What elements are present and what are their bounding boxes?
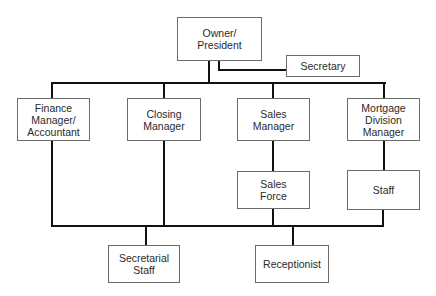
sales-up-line xyxy=(272,82,274,98)
finance-up-line xyxy=(51,82,53,98)
mortgage-to-staff-line xyxy=(383,140,385,170)
closing-up-line xyxy=(163,82,165,98)
closing-down-line xyxy=(163,140,165,227)
node-staff: Staff xyxy=(347,170,420,210)
receptionist-line xyxy=(292,225,294,245)
node-receptionist: Receptionist xyxy=(255,245,329,283)
finance-down-line xyxy=(51,140,53,227)
owner-trunk-line xyxy=(208,60,210,84)
node-secretary: Secretary xyxy=(286,55,360,77)
mortgage-up-line xyxy=(383,82,385,98)
secretarial-staff-line xyxy=(145,225,147,245)
node-closing-manager: Closing Manager xyxy=(127,98,201,141)
node-sales-manager: Sales Manager xyxy=(237,98,310,141)
node-secretarial-staff: Secretarial Staff xyxy=(108,245,180,283)
node-finance-manager: Finance Manager/ Accountant xyxy=(17,98,90,141)
node-mortgage-manager: Mortgage Division Manager xyxy=(347,98,420,141)
node-owner-president: Owner/ President xyxy=(177,17,262,61)
sales-to-force-line xyxy=(272,140,274,171)
org-chart: Owner/ President Secretary Finance Manag… xyxy=(0,0,436,296)
secretary-branch-line xyxy=(218,69,286,71)
top-bus-line xyxy=(51,82,386,84)
node-sales-force: Sales Force xyxy=(237,171,310,209)
bottom-bus-line xyxy=(51,225,384,227)
